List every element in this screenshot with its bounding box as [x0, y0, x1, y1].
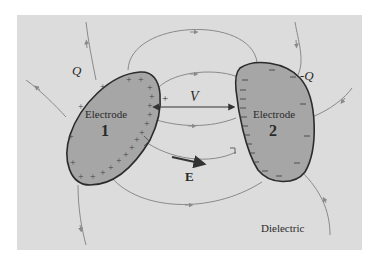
- field-line-right-bottom: [302, 172, 330, 235]
- svg-text:+: +: [70, 157, 76, 168]
- electrode-1-label: Electrode: [85, 108, 127, 120]
- field-line-top-outer: [128, 29, 257, 70]
- charge-neg-q-label: -Q: [300, 68, 314, 83]
- field-line-middle-lower: [150, 118, 236, 126]
- right-angle-markers: [144, 136, 235, 154]
- e-field-label: E: [185, 169, 194, 184]
- electrode-2-label: Electrode: [253, 108, 295, 120]
- svg-text:+: +: [100, 167, 106, 178]
- svg-text:+: +: [116, 155, 122, 166]
- electrode-2-number: 2: [269, 122, 277, 139]
- voltage-label: V: [190, 89, 200, 104]
- electrode-1-number: 1: [101, 122, 109, 139]
- field-line-left-down: [78, 185, 86, 245]
- svg-text:+: +: [78, 171, 84, 182]
- svg-text:+: +: [108, 162, 114, 173]
- field-line-left-up: [86, 22, 96, 80]
- charge-q-label: Q: [72, 63, 82, 78]
- field-line-top-inner: [158, 72, 240, 88]
- svg-text:+: +: [100, 81, 106, 92]
- svg-text:+: +: [129, 142, 135, 153]
- svg-text:+: +: [134, 134, 140, 145]
- dielectric-label: Dielectric: [261, 222, 304, 234]
- field-line-e: [143, 140, 236, 159]
- svg-text:+: +: [123, 149, 129, 160]
- svg-text:+: +: [138, 74, 144, 85]
- capacitor-diagram: ++ + +++ ++ + +++ +++ + ++ ++ Electrode …: [0, 0, 380, 267]
- svg-text:+: +: [144, 118, 150, 129]
- field-line-right: [312, 88, 352, 117]
- svg-text:+: +: [126, 74, 132, 85]
- electrode-1: ++ + +++ ++ + +++ +++ + ++ ++ Electrode …: [67, 72, 160, 185]
- field-line-left: [26, 80, 66, 117]
- svg-text:+: +: [90, 171, 96, 182]
- svg-text:+: +: [68, 131, 74, 142]
- svg-text:+: +: [78, 101, 84, 112]
- voltage-plus-sign: +: [162, 92, 168, 104]
